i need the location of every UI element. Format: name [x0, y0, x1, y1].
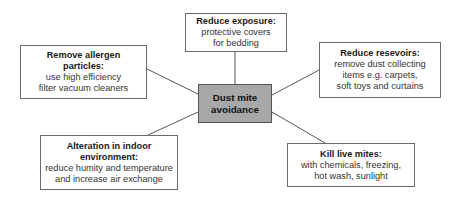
node-title: Alteration in indoor	[67, 141, 152, 152]
center-label: avoidance	[211, 104, 259, 116]
node-body-line: hot wash, sunlight	[314, 171, 388, 182]
edge-kill-live-mites	[272, 112, 325, 143]
node-title: particles:	[63, 61, 104, 72]
node-body-line: items e.g. carpets,	[342, 70, 417, 81]
node-title: Reduce resevoirs:	[340, 48, 420, 59]
node-body-line: filter vacuum cleaners	[39, 83, 128, 94]
node-alteration-indoor: Alteration in indoor environment: reduce…	[40, 135, 178, 190]
node-body-line: remove dust collecting	[334, 59, 425, 70]
node-title: environment:	[80, 152, 138, 163]
node-reduce-resevoirs: Reduce resevoirs: remove dust collecting…	[319, 42, 441, 98]
node-title: Kill live mites:	[320, 149, 382, 160]
node-title: Reduce exposure:	[196, 16, 276, 27]
edge-remove-allergen	[147, 69, 198, 94]
node-body-line: soft toys and curtains	[337, 81, 424, 92]
edge-reduce-resevoirs	[272, 70, 319, 95]
center-label: Dust mite	[213, 92, 258, 104]
node-title: Remove allergen	[47, 50, 121, 61]
center-node-dust-mite-avoidance: Dust mite avoidance	[198, 84, 272, 123]
node-body-line: with chemicals, freezing,	[301, 160, 401, 171]
node-body-line: and increase air exchange	[55, 174, 163, 185]
node-body-line: protective covers	[201, 27, 270, 38]
node-kill-live-mites: Kill live mites: with chemicals, freezin…	[287, 143, 415, 187]
edge-alteration-indoor	[148, 112, 198, 135]
node-body-line: reduce humity and temperature	[45, 163, 173, 174]
node-remove-allergen: Remove allergen particles: use high effi…	[20, 45, 147, 99]
node-reduce-exposure: Reduce exposure: protective covers for b…	[185, 13, 287, 52]
node-body-line: for bedding	[213, 38, 259, 49]
node-body-line: use high efficiency	[46, 72, 121, 83]
